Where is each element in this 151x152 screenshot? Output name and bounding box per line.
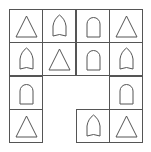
- round-arch-icon: [77, 10, 110, 43]
- triangle-icon: [43, 43, 76, 76]
- round-arch-icon: [77, 43, 110, 76]
- pointed-arch-icon: [110, 43, 143, 76]
- triangle-icon: [110, 110, 143, 143]
- grid-cell: [109, 9, 143, 43]
- round-arch-icon: [10, 77, 43, 110]
- grid-cell: [42, 42, 76, 76]
- pointed-arch-icon: [77, 110, 110, 143]
- triangle-icon: [10, 110, 43, 143]
- round-arch-icon: [110, 77, 143, 110]
- triangle-icon: [10, 10, 43, 43]
- grid-cell: [76, 9, 110, 43]
- grid-cell: [9, 76, 43, 110]
- grid-cell: [42, 9, 76, 43]
- pointed-arch-icon: [43, 10, 76, 43]
- grid-cell: [9, 109, 43, 143]
- grid-cell: [9, 9, 43, 43]
- pointed-arch-icon: [10, 43, 43, 76]
- grid-cell: [109, 76, 143, 110]
- triangle-icon: [110, 10, 143, 43]
- grid-cell: [109, 109, 143, 143]
- shape-grid: [9, 9, 143, 143]
- grid-cell: [76, 42, 110, 76]
- grid-cell: [9, 42, 43, 76]
- grid-cell: [109, 42, 143, 76]
- grid-cell: [76, 109, 110, 143]
